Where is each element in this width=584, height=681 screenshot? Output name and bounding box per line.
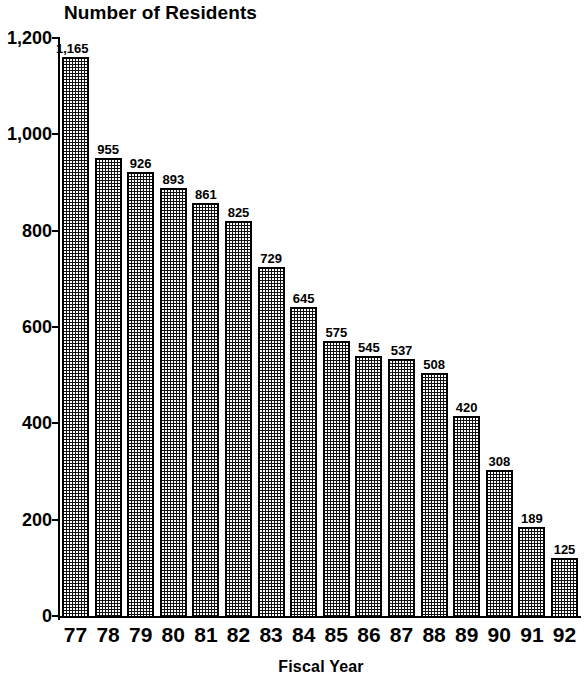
- bar-rect: [551, 558, 578, 618]
- bar-value-label: 893: [162, 173, 184, 186]
- chart-title: Number of Residents: [64, 2, 257, 24]
- x-axis-tick-label: 88: [421, 624, 448, 645]
- bar-fill-pattern: [260, 269, 283, 616]
- x-axis-tick-label: 89: [453, 624, 480, 645]
- y-axis-tick: [52, 133, 60, 135]
- y-axis-tick-label: 1,200: [0, 28, 52, 49]
- bar-value-label: 537: [391, 344, 413, 357]
- bar-rect: [225, 221, 252, 618]
- bar-fill-pattern: [194, 205, 217, 616]
- bar-fill-pattern: [97, 160, 120, 616]
- bar-fill-pattern: [390, 361, 413, 616]
- bar-value-label: 955: [97, 143, 119, 156]
- bar-rect: [486, 470, 513, 618]
- bar: 508: [421, 373, 448, 618]
- y-axis-tick-label: 200: [0, 509, 52, 530]
- bar: 893: [160, 188, 187, 618]
- x-axis-tick-label: 77: [62, 624, 89, 645]
- bar-value-label: 861: [195, 188, 217, 201]
- bar-value-label: 308: [488, 455, 510, 468]
- bar-fill-pattern: [488, 472, 511, 616]
- bar-rect: [290, 307, 317, 618]
- bar: 926: [127, 172, 154, 618]
- y-axis-tick-label: 0: [0, 606, 52, 627]
- bar: 825: [225, 221, 252, 618]
- x-axis-tick-label: 91: [518, 624, 545, 645]
- bar: 1,165: [62, 57, 89, 618]
- bar: 861: [192, 203, 219, 618]
- bar-fill-pattern: [292, 309, 315, 616]
- y-axis-tick: [52, 519, 60, 521]
- bar-value-label: 825: [228, 206, 250, 219]
- y-axis-tick: [52, 615, 60, 617]
- bar: 645: [290, 307, 317, 618]
- bar: 729: [258, 267, 285, 618]
- bar-rect: [323, 341, 350, 618]
- bar: 537: [388, 359, 415, 618]
- y-axis-tick-label: 800: [0, 220, 52, 241]
- bar-value-label: 575: [325, 326, 347, 339]
- bar-rect: [518, 527, 545, 618]
- bar-fill-pattern: [325, 343, 348, 616]
- bar-value-label: 125: [554, 543, 576, 556]
- x-axis-tick-label: 78: [95, 624, 122, 645]
- bar-fill-pattern: [162, 190, 185, 616]
- y-axis-tick-label: 600: [0, 317, 52, 338]
- bar: 955: [95, 158, 122, 618]
- y-axis-tick-label: 400: [0, 413, 52, 434]
- bar-rect: [127, 172, 154, 618]
- x-axis-tick-labels: 77787980818283848586878889909192: [60, 624, 583, 654]
- x-axis-tick-label: 83: [258, 624, 285, 645]
- x-axis-title: Fiscal Year: [0, 658, 584, 676]
- x-axis-tick-label: 81: [192, 624, 219, 645]
- bar-fill-pattern: [357, 358, 380, 617]
- x-axis-tick-label: 85: [323, 624, 350, 645]
- bar-fill-pattern: [520, 529, 543, 616]
- bar-rect: [160, 188, 187, 618]
- bar-value-label: 729: [260, 252, 282, 265]
- bar-rect: [95, 158, 122, 618]
- bar-value-label: 420: [456, 401, 478, 414]
- y-axis-tick: [52, 422, 60, 424]
- bars-container: 1,16595592689386182572964557554553750842…: [60, 38, 583, 618]
- bar-rect: [388, 359, 415, 618]
- bar-rect: [192, 203, 219, 618]
- bar-fill-pattern: [553, 560, 576, 616]
- x-axis-tick-label: 87: [388, 624, 415, 645]
- x-axis-tick-label: 82: [225, 624, 252, 645]
- bar-fill-pattern: [455, 418, 478, 616]
- x-axis-tick-label: 84: [290, 624, 317, 645]
- bar-fill-pattern: [227, 223, 250, 616]
- bar-rect: [355, 356, 382, 619]
- bar-value-label: 545: [358, 341, 380, 354]
- y-axis-tick: [52, 326, 60, 328]
- bar-rect: [453, 416, 480, 618]
- bar-value-label: 508: [423, 358, 445, 371]
- bar-value-label: 1,165: [56, 42, 89, 55]
- y-axis-tick: [52, 37, 60, 39]
- bar: 125: [551, 558, 578, 618]
- bar-fill-pattern: [423, 375, 446, 616]
- bar-rect: [258, 267, 285, 618]
- x-axis-tick-label: 92: [551, 624, 578, 645]
- bar-fill-pattern: [64, 59, 87, 616]
- bar-value-label: 189: [521, 512, 543, 525]
- bar: 308: [486, 470, 513, 618]
- x-axis-tick-label: 86: [355, 624, 382, 645]
- bar: 575: [323, 341, 350, 618]
- y-axis-tick: [52, 230, 60, 232]
- bar-fill-pattern: [129, 174, 152, 616]
- bar: 189: [518, 527, 545, 618]
- bar-chart: Number of Residents 02004006008001,0001,…: [0, 0, 584, 681]
- bar: 545: [355, 356, 382, 619]
- bar-value-label: 645: [293, 292, 315, 305]
- bar-rect: [62, 57, 89, 618]
- y-axis-tick-label: 1,000: [0, 124, 52, 145]
- x-axis-tick-label: 80: [160, 624, 187, 645]
- bar-rect: [421, 373, 448, 618]
- bar-value-label: 926: [130, 157, 152, 170]
- bar: 420: [453, 416, 480, 618]
- x-axis-tick-label: 79: [127, 624, 154, 645]
- x-axis-tick-label: 90: [486, 624, 513, 645]
